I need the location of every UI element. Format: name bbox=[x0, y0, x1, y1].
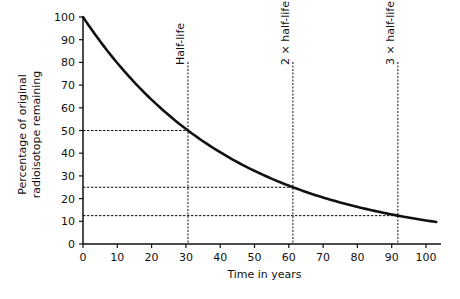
x-tick-label: 0 bbox=[80, 251, 87, 264]
x-tick-label: 50 bbox=[248, 251, 262, 264]
annotation-label: 2 × half-life bbox=[279, 1, 292, 65]
y-tick-label: 0 bbox=[68, 238, 75, 251]
x-tick-label: 100 bbox=[416, 251, 437, 264]
x-tick-label: 70 bbox=[316, 251, 330, 264]
x-axis-ticks: 0102030405060708090100 bbox=[80, 244, 437, 264]
annotation-label: 3 × half-life bbox=[384, 1, 397, 65]
y-axis-ticks: 0102030405060708090100 bbox=[54, 11, 83, 251]
y-tick-label: 90 bbox=[61, 34, 75, 47]
y-axis-title-line2: radioisotope remaining bbox=[30, 71, 43, 198]
y-axis-title-line1: Percentage of original bbox=[16, 74, 29, 195]
decay-chart: 0102030405060708090100 01020304050607080… bbox=[0, 0, 460, 299]
y-tick-label: 30 bbox=[61, 170, 75, 183]
x-tick-label: 90 bbox=[385, 251, 399, 264]
y-tick-label: 50 bbox=[61, 125, 75, 138]
x-tick-label: 20 bbox=[145, 251, 159, 264]
y-tick-label: 20 bbox=[61, 193, 75, 206]
y-tick-label: 60 bbox=[61, 102, 75, 115]
y-tick-label: 40 bbox=[61, 147, 75, 160]
x-tick-label: 10 bbox=[110, 251, 124, 264]
x-tick-label: 40 bbox=[213, 251, 227, 264]
x-tick-label: 80 bbox=[350, 251, 364, 264]
x-tick-label: 60 bbox=[282, 251, 296, 264]
x-axis-title: Time in years bbox=[226, 268, 301, 281]
x-tick-label: 30 bbox=[179, 251, 193, 264]
y-tick-label: 100 bbox=[54, 11, 75, 24]
y-tick-label: 80 bbox=[61, 56, 75, 69]
half-life-labels: Half-life2 × half-life3 × half-life bbox=[174, 1, 397, 65]
guide-lines bbox=[83, 62, 398, 244]
y-tick-label: 70 bbox=[61, 79, 75, 92]
y-tick-label: 10 bbox=[61, 215, 75, 228]
annotation-label: Half-life bbox=[174, 23, 187, 65]
